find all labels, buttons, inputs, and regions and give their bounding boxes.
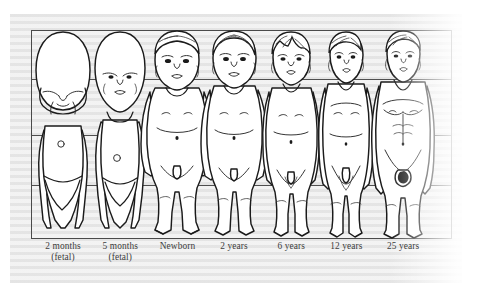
illustration-frame bbox=[31, 30, 452, 239]
caption-12-years: 12 years bbox=[330, 241, 362, 252]
caption-line1: 2 years bbox=[220, 241, 248, 252]
caption-2-years: 2 years bbox=[220, 241, 248, 252]
caption-fetal-2mo: 2 months (fetal) bbox=[45, 241, 80, 263]
caption-line1: Newborn bbox=[160, 241, 196, 252]
caption-line1: 5 months bbox=[103, 241, 138, 252]
proportion-illustration: 2 months (fetal) 5 months (fetal) Newbor… bbox=[0, 0, 481, 300]
proportion-line-1 bbox=[32, 79, 451, 80]
caption-line1: 2 months bbox=[45, 241, 80, 252]
caption-line2: (fetal) bbox=[103, 252, 138, 263]
stage-captions: 2 months (fetal) 5 months (fetal) Newbor… bbox=[31, 241, 452, 275]
caption-line1: 25 years bbox=[387, 241, 419, 252]
caption-line1: 6 years bbox=[277, 241, 305, 252]
caption-fetal-5mo: 5 months (fetal) bbox=[103, 241, 138, 263]
caption-line2: (fetal) bbox=[45, 252, 80, 263]
proportion-line-2 bbox=[32, 135, 451, 136]
caption-line1: 12 years bbox=[330, 241, 362, 252]
proportion-line-3 bbox=[32, 185, 451, 186]
caption-25-years: 25 years bbox=[387, 241, 419, 252]
caption-6-years: 6 years bbox=[277, 241, 305, 252]
caption-newborn: Newborn bbox=[160, 241, 196, 252]
